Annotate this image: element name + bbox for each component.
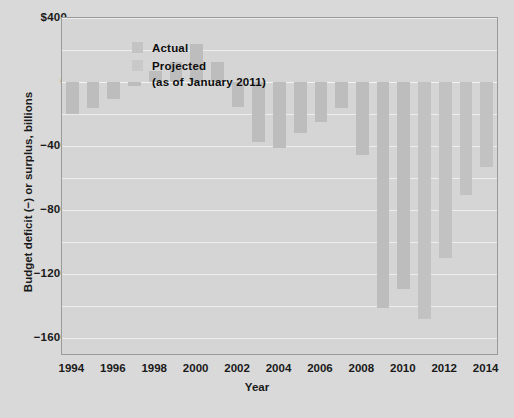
gridline bbox=[62, 338, 497, 339]
legend-label-projected: Projected bbox=[152, 60, 206, 72]
bar-1995 bbox=[87, 82, 100, 108]
gridline bbox=[62, 306, 497, 307]
y-tick-3: −800 bbox=[0, 203, 67, 215]
bar-2007 bbox=[335, 82, 348, 108]
bar-2013 bbox=[460, 82, 473, 195]
gridline bbox=[62, 242, 497, 243]
legend: Actual Projected (as of January 2011) bbox=[132, 40, 266, 88]
y-tick-1: 0 bbox=[0, 75, 67, 87]
bar-2004 bbox=[273, 82, 286, 148]
legend-item-actual: Actual bbox=[132, 40, 266, 55]
gridline bbox=[62, 274, 497, 275]
legend-swatch-actual bbox=[132, 42, 143, 53]
legend-swatch-projected bbox=[132, 60, 143, 71]
bar-2008 bbox=[356, 82, 369, 155]
bar-2005 bbox=[294, 82, 307, 133]
bar-2012 bbox=[439, 82, 452, 258]
legend-label-actual: Actual bbox=[152, 42, 188, 54]
gridline bbox=[62, 210, 497, 211]
gridline bbox=[62, 18, 497, 19]
plot-area: Actual Projected (as of January 2011) bbox=[61, 17, 498, 355]
y-tick-2: −400 bbox=[0, 139, 67, 151]
bar-1996 bbox=[107, 82, 120, 99]
bar-2009 bbox=[377, 82, 390, 308]
y-tick-4: −1200 bbox=[0, 267, 67, 279]
bar-1994 bbox=[66, 82, 79, 114]
x-axis-label: Year bbox=[0, 381, 514, 393]
y-tick-5: −1600 bbox=[0, 331, 67, 343]
chart-figure: Budget deficit (−) or surplus, billions … bbox=[0, 0, 514, 418]
x-tick-2014: 2014 bbox=[456, 362, 514, 374]
bar-2003 bbox=[252, 82, 265, 142]
gridline bbox=[62, 178, 497, 179]
bar-2006 bbox=[315, 82, 328, 122]
bar-2011 bbox=[418, 82, 431, 319]
bar-2014 bbox=[480, 82, 493, 167]
gridline bbox=[62, 50, 497, 51]
legend-note: (as of January 2011) bbox=[152, 76, 266, 88]
bar-2010 bbox=[397, 82, 410, 289]
legend-item-projected: Projected bbox=[132, 58, 266, 73]
y-tick-0: $400 bbox=[0, 11, 67, 23]
